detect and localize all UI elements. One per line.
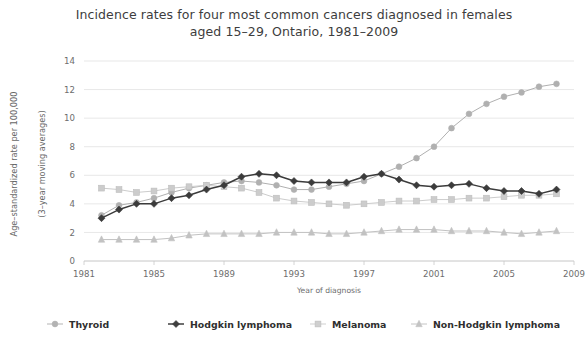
x-tick-label: 2009 [563,269,585,279]
legend-item-hodgkin-lymphoma[interactable]: Hodgkin lymphoma [168,319,292,330]
data-point-marker [501,94,507,100]
diamond-marker-icon [173,321,180,328]
chart-svg: 0246810121419811985198919931997200120052… [0,0,588,337]
data-point-marker [396,164,402,170]
data-point-marker [536,84,542,90]
data-point-marker [484,195,490,201]
data-point-marker [466,111,472,117]
data-point-marker [238,230,244,236]
data-point-marker [116,187,122,193]
y-tick-label: 10 [64,113,75,123]
legend-item-melanoma[interactable]: Melanoma [310,319,386,330]
data-point-marker [413,182,420,189]
legend-item-thyroid[interactable]: Thyroid [47,319,109,330]
data-point-marker [239,185,245,191]
data-point-marker [414,198,420,204]
legend-label: Non-Hodgkin lymphoma [433,319,560,330]
y-tick-label: 2 [70,228,75,238]
x-tick-label: 1989 [213,269,235,279]
square-marker-icon [315,321,321,327]
data-point-marker [449,197,455,203]
data-point-marker [169,185,175,191]
data-point-marker [519,90,525,96]
data-point-marker [378,170,385,177]
x-tick-label: 1985 [143,269,165,279]
y-axis-title-secondary: (3–year moving averages) [37,110,47,217]
data-point-marker [221,230,227,236]
data-point-marker [309,187,315,193]
legend-item-non-hodgkin-lymphoma[interactable]: Non-Hodgkin lymphoma [411,319,560,330]
x-tick-label: 2001 [423,269,445,279]
data-point-marker [134,190,140,196]
data-point-marker [168,195,175,202]
data-point-marker [554,81,560,87]
chart-legend: ThyroidHodgkin lymphomaMelanomaNon-Hodgk… [0,312,588,337]
data-point-marker [256,170,263,177]
data-point-marker [273,229,279,235]
data-point-marker [448,182,455,189]
y-tick-label: 12 [64,85,75,95]
data-point-marker [483,185,490,192]
data-point-marker [256,180,262,186]
data-point-marker [186,184,192,190]
data-point-marker [274,195,280,201]
data-point-marker [326,201,332,207]
data-point-marker [396,198,402,204]
data-point-marker [308,229,314,235]
data-point-marker [203,230,209,236]
data-point-marker [431,183,438,190]
legend-label: Melanoma [332,319,386,330]
legend-label: Thyroid [69,319,109,330]
y-tick-label: 4 [70,199,75,209]
data-point-marker [151,200,158,207]
data-point-marker [396,176,403,183]
y-tick-label: 0 [70,256,75,266]
data-point-marker [274,182,280,188]
data-point-marker [553,227,559,233]
x-tick-label: 1981 [73,269,95,279]
y-tick-label: 14 [64,56,75,66]
data-point-marker [291,178,298,185]
data-point-marker [344,202,350,208]
data-point-marker [291,229,297,235]
x-tick-label: 1993 [283,269,305,279]
data-point-marker [308,179,315,186]
x-tick-label: 2005 [493,269,515,279]
data-point-marker [273,172,280,179]
data-point-marker [414,155,420,161]
data-point-marker [256,190,262,196]
data-point-marker [99,185,105,191]
data-point-marker [466,195,472,201]
data-point-marker [361,201,367,207]
data-point-marker [291,187,297,193]
plot-area: 0246810121419811985198919931997200120052… [0,0,588,337]
data-point-marker [484,101,490,107]
x-tick-label: 1997 [353,269,375,279]
y-tick-label: 6 [70,170,75,180]
data-point-marker [501,188,508,195]
data-point-marker [431,144,437,150]
data-point-marker [291,198,297,204]
legend-label: Hodgkin lymphoma [190,319,292,330]
series-non-hodgkin-lymphoma [98,226,559,242]
legend-svg: ThyroidHodgkin lymphomaMelanomaNon-Hodgk… [0,312,588,337]
series-hodgkin-lymphoma [98,170,560,221]
chart-figure: Incidence rates for four most common can… [0,0,588,337]
y-axis-title-primary: Age–standardized rate per 100,000 [9,92,19,237]
y-tick-label: 8 [70,142,75,152]
data-point-marker [431,197,437,203]
circle-marker-icon [52,321,58,327]
x-axis-title: Year of diagnosis [296,286,361,295]
data-point-marker [379,200,385,206]
data-point-marker [151,188,157,194]
data-point-marker [309,200,315,206]
data-point-marker [466,180,473,187]
data-point-marker [186,192,193,199]
data-point-marker [449,125,455,131]
